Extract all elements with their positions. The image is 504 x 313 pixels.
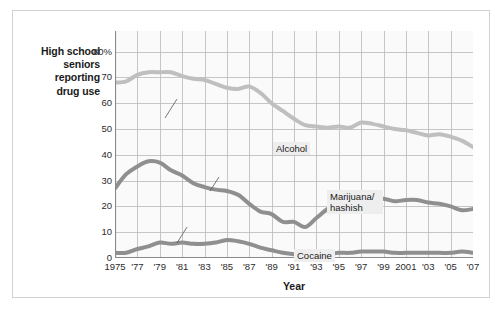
series-label-marijuana-line1: Marijuana/ xyxy=(330,191,374,202)
x-tick-label: '97 xyxy=(355,261,367,272)
plot-area: Alcohol Marijuana/ hashish Cocaine xyxy=(115,31,473,258)
x-tick-label: '83 xyxy=(198,261,210,272)
y-tick-label: 60 xyxy=(78,98,112,108)
x-tick-label: '81 xyxy=(176,261,188,272)
x-tick-label: '99 xyxy=(377,261,389,272)
x-tick-label: '87 xyxy=(243,261,255,272)
x-tick-label: 1975 xyxy=(104,261,125,272)
series-label-marijuana-line2: hashish xyxy=(330,202,363,213)
y-tick-label: 80% xyxy=(78,47,112,57)
y-tick-label: 30 xyxy=(78,176,112,186)
figure-root: High school seniors reporting drug use 0… xyxy=(0,0,504,313)
y-axis-tick-labels: 01020304050607080% xyxy=(76,31,112,258)
y-tick-label: 70 xyxy=(78,72,112,82)
y-tick-label: 50 xyxy=(78,124,112,134)
x-tick-label: '85 xyxy=(221,261,233,272)
x-tick-label: 2001 xyxy=(395,261,416,272)
y-tick-label: 40 xyxy=(78,150,112,160)
x-tick-label: '07 xyxy=(467,261,479,272)
x-tick-label: '77 xyxy=(131,261,143,272)
x-tick-label: '05 xyxy=(444,261,456,272)
x-tick-label: '03 xyxy=(422,261,434,272)
x-tick-label: '79 xyxy=(154,261,166,272)
x-tick-label: '95 xyxy=(333,261,345,272)
y-tick-label: 10 xyxy=(78,227,112,237)
x-axis-tick-labels: 1975'77'79'81'83'85'87'89'91'93'95'97'99… xyxy=(115,261,473,277)
x-tick-label: '89 xyxy=(265,261,277,272)
x-tick-label: '91 xyxy=(288,261,300,272)
y-tick-label: 20 xyxy=(78,201,112,211)
x-axis-title: Year xyxy=(115,280,473,292)
series-label-alcohol: Alcohol xyxy=(273,142,310,155)
series-label-marijuana: Marijuana/ hashish xyxy=(327,190,383,214)
x-tick-label: '93 xyxy=(310,261,322,272)
